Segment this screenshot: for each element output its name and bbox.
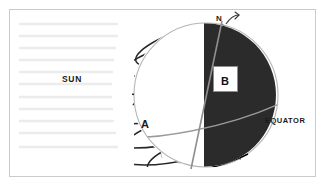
earth-illumination-illustration	[0, 0, 327, 188]
sun-rays-group	[19, 24, 118, 147]
diagram-root: SUN EQUATOR N A B	[0, 0, 327, 188]
north-pole-label: N	[216, 15, 222, 23]
rotation-direction-arrow-icon	[226, 12, 239, 24]
day-hemisphere	[132, 23, 204, 167]
point-a-label: A	[141, 119, 149, 130]
night-hemisphere	[204, 23, 276, 167]
equator-label: EQUATOR	[265, 117, 305, 125]
point-b-label: B	[221, 76, 229, 87]
sun-label: SUN	[62, 75, 82, 84]
